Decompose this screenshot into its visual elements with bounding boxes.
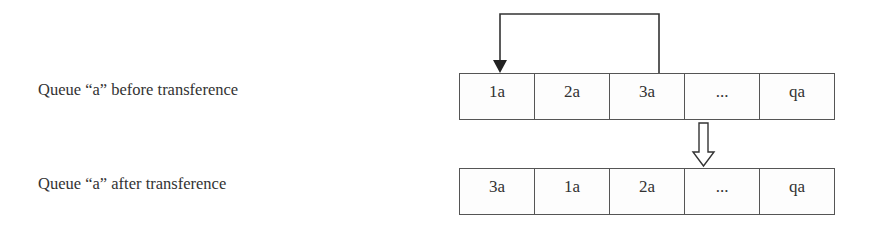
queue-cell: ... (685, 74, 760, 119)
queue-cell: qa (760, 74, 834, 119)
move-3a-to-front-arrow-icon (493, 14, 659, 73)
label-before-transference: Queue “a” before transference (38, 80, 238, 100)
queue-before: 1a 2a 3a ... qa (459, 73, 835, 120)
queue-cell: qa (760, 169, 834, 214)
queue-cell: 3a (460, 169, 535, 214)
queue-cell: ... (685, 169, 760, 214)
label-after-transference: Queue “a” after transference (38, 174, 226, 194)
queue-cell: 2a (610, 169, 685, 214)
queue-cell: 3a (610, 74, 685, 119)
queue-cell: 2a (535, 74, 610, 119)
queue-after: 3a 1a 2a ... qa (459, 168, 835, 215)
queue-cell: 1a (535, 169, 610, 214)
queue-cell: 1a (460, 74, 535, 119)
hollow-down-arrow-icon (693, 123, 714, 166)
